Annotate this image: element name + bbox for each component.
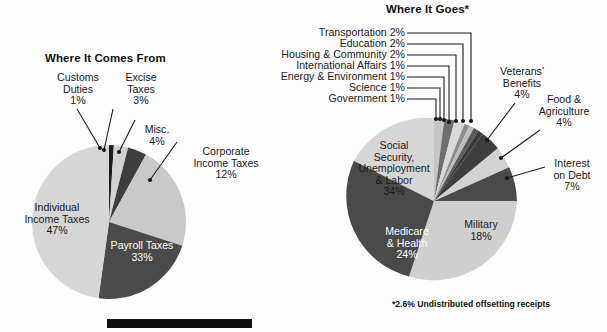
- leader-dot-energy: [442, 118, 446, 122]
- label-military: Military 18%: [450, 219, 512, 242]
- label-corporate-income-taxes: Corporate Income Taxes 12%: [176, 146, 276, 181]
- label-food-agriculture: Food & Agriculture 4%: [524, 94, 604, 129]
- leader-food-agriculture: [501, 130, 540, 158]
- left-chart-title: Where It Comes From: [45, 52, 166, 64]
- label-payroll-taxes: Payroll Taxes 33%: [98, 240, 186, 263]
- leader-dot-corporate: [148, 178, 152, 182]
- infographic-canvas: Where It Comes From Where It Goes* Custo…: [0, 0, 607, 332]
- label-government: Government 1%: [217, 93, 405, 105]
- label-medicare-health: Medicare & Health 24%: [368, 226, 446, 261]
- label-excise-taxes: Excise Taxes 3%: [112, 72, 170, 107]
- leader-interest-on-debt: [507, 167, 545, 178]
- label-social-security: Social Security, Unemployment & Labor 34…: [346, 140, 442, 198]
- leader-dot-government: [434, 117, 438, 121]
- leader-dot-misc: [117, 150, 121, 154]
- leader-science: [407, 88, 440, 119]
- leader-dot-customs: [98, 146, 102, 150]
- label-individual-income-taxes: Individual Income Taxes 47%: [6, 202, 108, 237]
- leader-dot-excise: [102, 148, 106, 152]
- leader-dot-veterans: [485, 138, 489, 142]
- leader-dot-education: [461, 119, 465, 123]
- leader-dot-transportation: [469, 119, 473, 123]
- bottom-black-bar: [107, 319, 252, 328]
- leader-dot-food: [499, 156, 503, 160]
- label-misc: Misc. 4%: [130, 124, 184, 147]
- leader-government: [407, 99, 436, 119]
- leader-excise-taxes: [104, 109, 113, 150]
- right-chart-footnote: *2.6% Undistributed offsetting receipts: [392, 299, 550, 309]
- leader-dot-international: [447, 120, 451, 124]
- label-customs-duties: Customs Duties 1%: [42, 72, 114, 107]
- leader-veterans: [487, 103, 515, 140]
- leader-dot-housing: [454, 119, 458, 123]
- label-interest-on-debt: Interest on Debt 7%: [541, 158, 603, 193]
- leader-dot-science: [438, 117, 442, 121]
- leader-dot-interest: [505, 176, 509, 180]
- right-chart-title: Where It Goes*: [386, 3, 469, 15]
- leader-lines-right-stack: [407, 33, 471, 122]
- leader-international: [407, 66, 449, 122]
- leader-customs-duties: [77, 109, 100, 148]
